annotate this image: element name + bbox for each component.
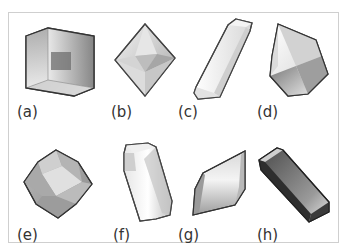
panel-d-pyramidal-crystal	[266, 22, 334, 100]
panel-label-h: (h)	[257, 226, 278, 244]
elongated-prism-icon	[190, 17, 256, 103]
cube-icon	[22, 26, 102, 98]
panel-label-e: (e)	[17, 226, 38, 244]
pyramidal-crystal-icon	[266, 22, 334, 100]
panel-f-columnar-prism	[122, 141, 180, 223]
panel-c-elongated-prism	[190, 17, 256, 103]
panel-label-c: (c)	[178, 103, 198, 121]
panel-label-b: (b)	[111, 103, 132, 121]
panel-g-rhombohedron	[191, 149, 249, 217]
panel-e-rhombic-dodecahedron	[22, 148, 94, 220]
dark-block-icon	[257, 146, 333, 224]
panel-label-f: (f)	[113, 226, 130, 244]
columnar-prism-icon	[122, 141, 180, 223]
rhombohedron-icon	[191, 149, 249, 217]
panel-label-g: (g)	[178, 226, 199, 244]
rhombic-dodecahedron-icon	[22, 148, 94, 220]
octahedron-icon	[113, 22, 177, 98]
panel-b-octahedron	[113, 22, 177, 98]
panel-label-a: (a)	[17, 103, 38, 121]
panel-a-cube	[22, 26, 102, 98]
panel-h-dark-block	[257, 146, 333, 224]
panel-label-d: (d)	[257, 103, 278, 121]
